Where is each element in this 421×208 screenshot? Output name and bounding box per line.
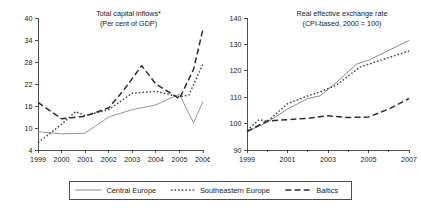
y-tick-label: 16 [25,102,33,111]
series-line-southeastern-europe [38,64,203,143]
y-tick-label: 34 [25,36,33,45]
legend-label-central-europe: Central Europe [106,186,156,195]
x-tick-label: 2002 [101,155,117,164]
chart-title: Total capital inflows* [96,9,161,18]
y-tick-label: 100 [230,119,242,128]
y-tick-label: 90 [234,146,242,155]
y-tick-label: 28 [25,58,33,67]
chart-subtitle: (CPI-based, 2000 = 100) [303,19,382,28]
figure-root: Total capital inflows*(Per cent of GDP)4… [0,0,421,208]
y-tick-label: 140 [230,14,242,23]
legend-container: Central EuropeSoutheastern EuropeBaltics [0,176,421,208]
chart-panel-real-effective-exchange-rate: Real effective exchange rate(CPI-based, … [211,0,421,175]
x-tick-label: 2004 [148,155,164,164]
y-tick-label: 10 [25,124,33,133]
x-tick-label: 2006 [195,155,210,164]
chart-svg-real-effective-exchange-rate: Real effective exchange rate(CPI-based, … [211,0,421,175]
y-tick-label: 40 [25,14,33,23]
x-tick-label: 2000 [54,155,70,164]
x-tick-label: 2003 [124,155,140,164]
chart-svg-total-capital-inflows: Total capital inflows*(Per cent of GDP)4… [0,0,210,175]
y-tick-label: 4 [29,146,33,155]
x-tick-label: 2005 [171,155,187,164]
axis-lines [247,18,409,150]
chart-title: Real effective exchange rate [297,9,388,18]
x-tick-label: 2001 [280,155,296,164]
y-tick-label: 130 [230,40,242,49]
x-tick-label: 2001 [77,155,93,164]
y-tick-label: 22 [25,80,33,89]
x-tick-label: 2007 [401,155,417,164]
x-tick-label: 2003 [320,155,336,164]
legend-svg: Central EuropeSoutheastern EuropeBaltics [0,176,421,208]
series-line-southeastern-europe [247,51,409,130]
x-tick-label: 2005 [361,155,377,164]
chart-panel-total-capital-inflows: Total capital inflows*(Per cent of GDP)4… [0,0,210,175]
legend-label-baltics: Baltics [316,186,338,195]
chart-subtitle: (Per cent of GDP) [100,19,157,28]
series-line-central-europe [38,94,203,134]
legend-label-southeastern-europe: Southeastern Europe [200,186,270,195]
axis-lines [38,18,203,150]
x-tick-label: 1999 [239,155,255,164]
y-tick-label: 120 [230,66,242,75]
series-line-baltics [38,29,203,119]
x-tick-label: 1999 [30,155,46,164]
series-line-baltics [247,99,409,132]
y-tick-label: 110 [230,93,241,102]
